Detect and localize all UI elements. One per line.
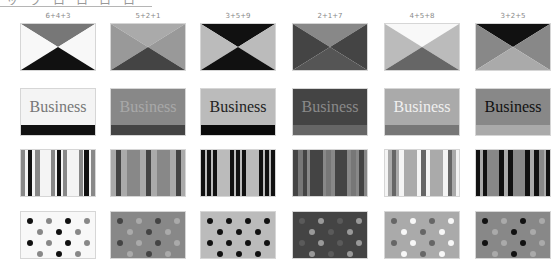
dot (117, 240, 123, 246)
dot (299, 218, 305, 224)
business-text: Business (111, 97, 185, 117)
dot (46, 218, 52, 224)
column-label: 2+1+7 (290, 12, 370, 20)
stripe-band (293, 150, 367, 196)
business-bar (385, 125, 459, 135)
dot (174, 240, 180, 246)
stripe (456, 150, 459, 196)
dot (37, 229, 43, 235)
business-swatch[interactable]: Business (20, 88, 96, 136)
dot (539, 240, 545, 246)
dot (539, 218, 545, 224)
dot (492, 251, 498, 257)
dots-swatch[interactable] (475, 211, 551, 259)
dot (255, 229, 261, 235)
xpattern-swatch[interactable] (475, 23, 551, 71)
dot (146, 229, 152, 235)
xpattern-swatch[interactable] (200, 23, 276, 71)
dot (264, 218, 270, 224)
dot (448, 240, 454, 246)
xpattern-swatch[interactable] (384, 23, 460, 71)
dot (347, 251, 353, 257)
dot (264, 240, 270, 246)
stripe-band (111, 150, 185, 196)
dot (356, 240, 362, 246)
dot (136, 218, 142, 224)
dot (328, 229, 334, 235)
dots-swatch[interactable] (384, 211, 460, 259)
business-bar (476, 125, 550, 135)
dot (56, 229, 62, 235)
stripe (181, 150, 185, 196)
dot (127, 251, 133, 257)
dot (155, 218, 161, 224)
business-swatch[interactable]: Business (384, 88, 460, 136)
dot (165, 229, 171, 235)
header-underline (0, 6, 152, 7)
business-text: Business (476, 97, 550, 117)
business-text: Business (293, 97, 367, 117)
dot (501, 240, 507, 246)
dot (511, 229, 517, 235)
dot (299, 240, 305, 246)
dot (448, 218, 454, 224)
stripes-swatch[interactable] (200, 149, 276, 197)
xpattern-swatch[interactable] (110, 23, 186, 71)
dots-swatch[interactable] (200, 211, 276, 259)
dot (46, 240, 52, 246)
dot (75, 229, 81, 235)
stripe (67, 150, 78, 196)
business-text: Business (385, 97, 459, 117)
column-label: 4+5+8 (382, 12, 462, 20)
column-label: 3+5+9 (198, 12, 278, 20)
dot (65, 218, 71, 224)
business-text: Business (201, 97, 275, 117)
dot (127, 229, 133, 235)
dots-swatch[interactable] (292, 211, 368, 259)
dot (429, 240, 435, 246)
dot (420, 251, 426, 257)
stripe-band (385, 150, 459, 196)
dot (117, 218, 123, 224)
stripe-band (201, 150, 275, 196)
stripes-swatch[interactable] (475, 149, 551, 197)
dot (420, 229, 426, 235)
dot (337, 218, 343, 224)
business-swatch[interactable]: Business (200, 88, 276, 136)
dots-swatch[interactable] (110, 211, 186, 259)
dot (318, 240, 324, 246)
stripe (217, 150, 231, 196)
business-text: Business (21, 97, 95, 117)
dot (207, 218, 213, 224)
stripe (40, 150, 51, 196)
stripe (430, 150, 443, 196)
business-swatch[interactable]: Business (475, 88, 551, 136)
business-swatch[interactable]: Business (292, 88, 368, 136)
dot (75, 251, 81, 257)
dot (391, 240, 397, 246)
xpattern-swatch[interactable] (292, 23, 368, 71)
xpattern-swatch[interactable] (20, 23, 96, 71)
stripe (335, 150, 347, 196)
dot (482, 218, 488, 224)
stripe (546, 150, 550, 196)
business-bar (111, 125, 185, 135)
dot (217, 251, 223, 257)
stripes-swatch[interactable] (384, 149, 460, 197)
dot (439, 229, 445, 235)
stripes-swatch[interactable] (110, 149, 186, 197)
dot (520, 218, 526, 224)
dot (56, 251, 62, 257)
stripes-swatch[interactable] (20, 149, 96, 197)
stripe (91, 150, 95, 196)
stripe (271, 150, 275, 196)
dots-swatch[interactable] (20, 211, 96, 259)
dot (439, 251, 445, 257)
dot (245, 240, 251, 246)
business-swatch[interactable]: Business (110, 88, 186, 136)
column-label: 6+4+3 (18, 12, 98, 20)
stripes-swatch[interactable] (292, 149, 368, 197)
dot (318, 218, 324, 224)
stripe-band (476, 150, 550, 196)
dot (410, 240, 416, 246)
